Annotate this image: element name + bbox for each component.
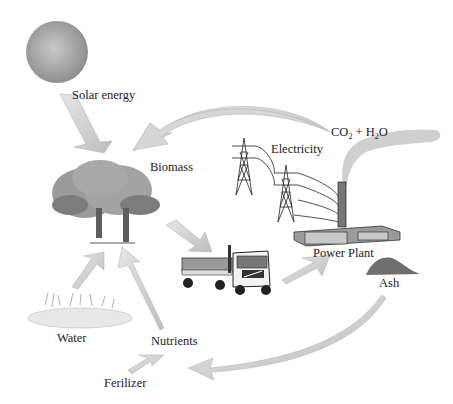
sun-icon xyxy=(26,21,88,83)
label-solar-energy: Solar energy xyxy=(72,88,135,103)
ash-pile-icon xyxy=(366,258,420,275)
label-co2-h2o: CO2 + H2O xyxy=(331,125,388,141)
label-nutrients: Nutrients xyxy=(151,334,198,349)
tree-icon xyxy=(52,160,160,243)
arrow-biomass-to-truck xyxy=(166,220,212,252)
arrow-ash-to-nutrients xyxy=(188,295,386,380)
biomass-cycle-diagram: Solar energy Biomass Electricity CO2 + H… xyxy=(0,0,453,404)
label-ash: Ash xyxy=(379,276,399,291)
label-electricity: Electricity xyxy=(271,142,323,157)
label-biomass: Biomass xyxy=(150,160,193,175)
truck-icon xyxy=(182,245,271,295)
water-pond-icon xyxy=(28,293,132,328)
arrow-fertilizer-to-nutrients xyxy=(128,355,164,374)
label-fertilizer: Ferilizer xyxy=(104,376,146,391)
arrow-water-to-biomass xyxy=(72,252,104,289)
power-plant-icon xyxy=(294,182,400,246)
label-water: Water xyxy=(57,331,87,346)
label-power-plant: Power Plant xyxy=(313,246,374,261)
